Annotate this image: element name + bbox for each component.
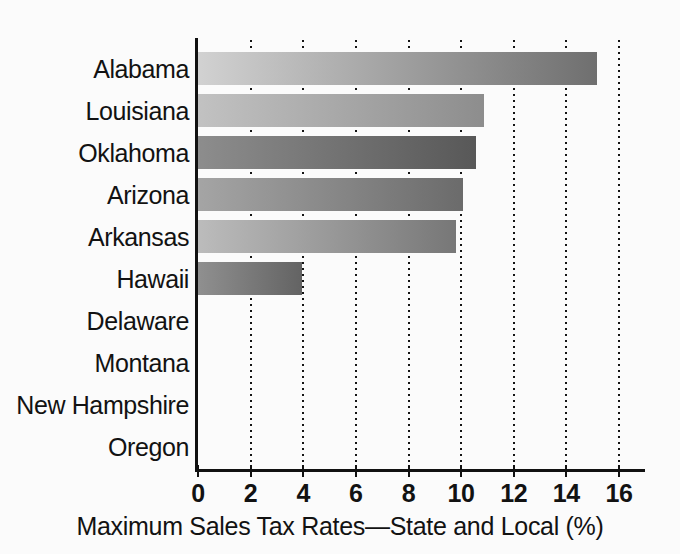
- x-axis-tick-label: 0: [168, 479, 228, 508]
- x-axis-tick: [618, 465, 620, 477]
- gridline: [618, 40, 620, 470]
- x-axis-tick-label: 10: [431, 479, 491, 508]
- x-axis-tick-label: 8: [379, 479, 439, 508]
- bar-row: New Hampshire: [197, 384, 618, 426]
- category-label-montana: Montana: [12, 342, 189, 384]
- bar-row: Hawaii: [197, 258, 618, 300]
- x-axis-tick-label: 4: [273, 479, 333, 508]
- bar-row: Oregon: [197, 426, 618, 468]
- x-axis-tick: [460, 465, 462, 477]
- category-label-louisiana: Louisiana: [12, 90, 189, 132]
- plot-area: AlabamaLouisianaOklahomaArizonaArkansasH…: [197, 40, 618, 470]
- bar-louisiana: [197, 94, 484, 127]
- bar-row: Delaware: [197, 300, 618, 342]
- x-axis-tick-label: 14: [536, 479, 596, 508]
- category-label-delaware: Delaware: [12, 300, 189, 342]
- x-axis-tick: [197, 465, 199, 477]
- x-axis-line: [195, 469, 645, 472]
- x-axis-tick-label: 6: [326, 479, 386, 508]
- category-label-arizona: Arizona: [12, 174, 189, 216]
- x-axis-tick: [250, 465, 252, 477]
- category-label-arkansas: Arkansas: [12, 216, 189, 258]
- bar-row: Oklahoma: [197, 132, 618, 174]
- bar-arkansas: [197, 220, 456, 253]
- bar-row: Arkansas: [197, 216, 618, 258]
- category-label-oregon: Oregon: [12, 426, 189, 468]
- x-axis-tick-label: 16: [589, 479, 649, 508]
- bar-oklahoma: [197, 136, 476, 169]
- category-label-hawaii: Hawaii: [12, 258, 189, 300]
- x-axis-title: Maximum Sales Tax Rates—State and Local …: [0, 512, 680, 541]
- bar-hawaii: [197, 262, 302, 295]
- y-axis-line: [195, 38, 198, 471]
- bar-chart: AlabamaLouisianaOklahomaArizonaArkansasH…: [0, 0, 680, 554]
- x-axis-tick-label: 2: [221, 479, 281, 508]
- bar-row: Alabama: [197, 48, 618, 90]
- x-axis-tick: [302, 465, 304, 477]
- bar-row: Montana: [197, 342, 618, 384]
- x-axis-tick: [513, 465, 515, 477]
- category-label-alabama: Alabama: [12, 48, 189, 90]
- x-axis-tick: [408, 465, 410, 477]
- bar-row: Louisiana: [197, 90, 618, 132]
- bar-row: Arizona: [197, 174, 618, 216]
- category-label-new-hampshire: New Hampshire: [12, 384, 189, 426]
- x-axis-tick-label: 12: [484, 479, 544, 508]
- x-axis-tick: [355, 465, 357, 477]
- bar-arizona: [197, 178, 463, 211]
- x-axis-tick: [565, 465, 567, 477]
- bar-alabama: [197, 52, 597, 85]
- category-label-oklahoma: Oklahoma: [12, 132, 189, 174]
